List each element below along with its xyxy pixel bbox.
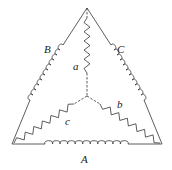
coil-A <box>45 141 129 144</box>
delta-wye-diagram: A B C a b c <box>0 0 172 170</box>
label-resistor-b: b <box>117 98 123 110</box>
resistor-b <box>100 104 160 143</box>
wire-left-lower <box>12 100 30 144</box>
resistor-a <box>84 18 90 73</box>
wye-dashed-b <box>87 96 100 104</box>
label-coil-C: C <box>117 43 125 55</box>
wire-left-upper <box>63 8 87 45</box>
resistor-network <box>14 18 160 143</box>
label-coil-B: B <box>44 43 51 55</box>
wire-right-upper <box>87 8 111 45</box>
label-coil-A: A <box>80 153 88 165</box>
delta-triangle <box>12 8 162 144</box>
label-resistor-a: a <box>73 60 79 72</box>
wye-dashed-c <box>74 96 87 104</box>
label-resistor-c: c <box>65 115 70 127</box>
